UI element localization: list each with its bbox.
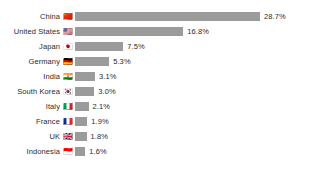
bar-row: India🇮🇳3.1% [0, 69, 309, 84]
bar-row: South Korea🇰🇷3.0% [0, 84, 309, 99]
bar-value-label: 3.1% [99, 72, 117, 82]
bar-row: Japan🇯🇵7.5% [0, 39, 309, 54]
bar-track: 2.1% [75, 99, 309, 114]
bar-fill [75, 87, 94, 96]
bar-fill [75, 27, 183, 36]
bar-fill [75, 147, 85, 156]
bar-track: 7.5% [75, 39, 309, 54]
bar-category-label: China [0, 12, 60, 22]
bar-category-label: India [0, 72, 60, 82]
flag-india-icon: 🇮🇳 [60, 72, 75, 82]
bar-row: United States🇺🇸16.8% [0, 24, 309, 39]
bar-category-label: Indonesia [0, 147, 60, 157]
chart-rows-container: China🇨🇳28.7%United States🇺🇸16.8%Japan🇯🇵7… [0, 9, 309, 159]
flag-france-icon: 🇫🇷 [60, 117, 75, 127]
bar-track: 5.3% [75, 54, 309, 69]
bar-value-label: 1.9% [91, 117, 109, 127]
bar-fill [75, 102, 89, 111]
bar-track: 1.9% [75, 114, 309, 129]
bar-category-label: Japan [0, 42, 60, 52]
bar-fill [75, 12, 260, 21]
bar-value-label: 2.1% [93, 102, 111, 112]
bar-value-label: 7.5% [127, 42, 145, 52]
flag-china-icon: 🇨🇳 [60, 12, 75, 22]
bar-track: 3.0% [75, 84, 309, 99]
bar-category-label: South Korea [0, 87, 60, 97]
bar-category-label: France [0, 117, 60, 127]
flag-italy-icon: 🇮🇹 [60, 102, 75, 112]
bar-fill [75, 57, 109, 66]
bar-track: 1.8% [75, 129, 309, 144]
bar-value-label: 5.3% [113, 57, 131, 67]
flag-south-korea-icon: 🇰🇷 [60, 87, 75, 97]
bar-fill [75, 117, 87, 126]
bar-fill [75, 72, 95, 81]
bar-value-label: 28.7% [264, 12, 286, 22]
flag-indonesia-icon: 🇮🇩 [60, 147, 75, 157]
flag-united-states-icon: 🇺🇸 [60, 27, 75, 37]
bar-value-label: 16.8% [187, 27, 209, 37]
bar-fill [75, 42, 123, 51]
bar-value-label: 1.8% [91, 132, 109, 142]
bar-track: 3.1% [75, 69, 309, 84]
bar-value-label: 3.0% [98, 87, 116, 97]
bar-row: France🇫🇷1.9% [0, 114, 309, 129]
bar-value-label: 1.6% [89, 147, 107, 157]
flag-germany-icon: 🇩🇪 [60, 57, 75, 67]
flag-japan-icon: 🇯🇵 [60, 42, 75, 52]
bar-category-label: United States [0, 27, 60, 37]
bar-row: Italy🇮🇹2.1% [0, 99, 309, 114]
bar-row: UK🇬🇧1.8% [0, 129, 309, 144]
horizontal-bar-chart: China🇨🇳28.7%United States🇺🇸16.8%Japan🇯🇵7… [0, 0, 309, 178]
bar-category-label: Italy [0, 102, 60, 112]
bar-row: China🇨🇳28.7% [0, 9, 309, 24]
flag-uk-icon: 🇬🇧 [60, 132, 75, 142]
bar-track: 1.6% [75, 144, 309, 159]
bar-fill [75, 132, 87, 141]
bar-row: Germany🇩🇪5.3% [0, 54, 309, 69]
bar-track: 16.8% [75, 24, 309, 39]
bar-track: 28.7% [75, 9, 309, 24]
bar-row: Indonesia🇮🇩1.6% [0, 144, 309, 159]
bar-category-label: Germany [0, 57, 60, 67]
bar-category-label: UK [0, 132, 60, 142]
